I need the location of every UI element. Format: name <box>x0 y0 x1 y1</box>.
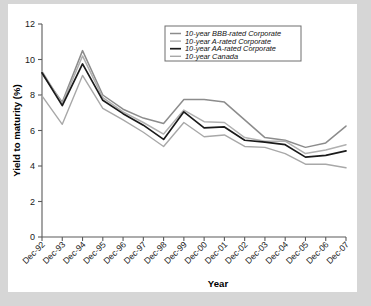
x-axis-title: Year <box>208 278 229 289</box>
y-tick-label: 6 <box>30 126 35 136</box>
line-chart: 024681012Dec-92Dec-93Dec-94Dec-95Dec-96D… <box>8 4 357 292</box>
chart-figure: 024681012Dec-92Dec-93Dec-94Dec-95Dec-96D… <box>8 4 357 292</box>
y-axis-title: Yield to maturity (%) <box>11 84 22 176</box>
y-tick-label: 2 <box>30 197 35 207</box>
plot-area: 024681012Dec-92Dec-93Dec-94Dec-95Dec-96D… <box>8 4 357 292</box>
y-tick-label: 8 <box>30 90 35 100</box>
series-line-10-year-aa-rated-corporate <box>42 64 346 157</box>
y-tick-label: 10 <box>25 55 35 65</box>
x-tick-label: Dec-07 <box>324 239 351 266</box>
y-tick-label: 12 <box>25 19 35 29</box>
y-tick-label: 4 <box>30 161 35 171</box>
legend-label: 10-year Canada <box>185 52 238 61</box>
chart-legend: 10-year BBB-rated Corporate10-year A-rat… <box>165 26 301 61</box>
series-line-10-year-a-rated-corporate <box>42 56 346 154</box>
y-tick-label: 0 <box>30 232 35 242</box>
